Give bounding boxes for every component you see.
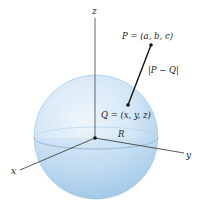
- sphere-distance-diagram: z y x P = (a, b, c) |P − Q| Q = (x, y, z…: [0, 0, 197, 207]
- distance-label: |P − Q|: [148, 65, 179, 76]
- radius-label: R: [117, 129, 125, 139]
- origin-point: [93, 136, 97, 140]
- point-q: [126, 103, 130, 107]
- point-q-label: Q = (x, y, z): [101, 110, 151, 120]
- z-axis-label: z: [91, 6, 97, 16]
- point-p: [149, 43, 153, 47]
- point-p-label: P = (a, b, c): [121, 31, 173, 41]
- x-axis-label: x: [11, 166, 16, 176]
- y-axis-label: y: [185, 150, 192, 160]
- lower-hemisphere-shade: [30, 138, 165, 207]
